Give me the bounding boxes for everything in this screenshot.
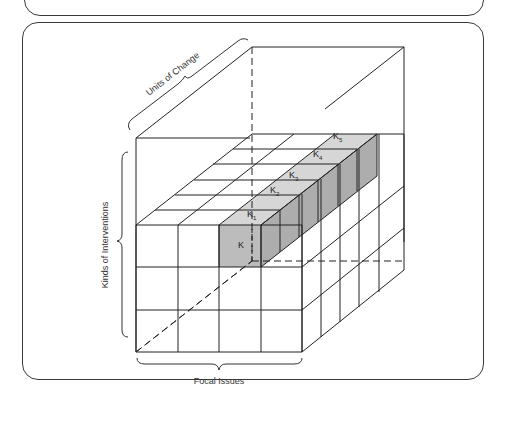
label-k0: K [238,240,244,250]
kinds-of-interventions-brace [117,152,128,337]
cube-diagram: K K1 K2 K3 K4 K5 Units of Change Kinds o… [0,0,510,428]
units-of-change-brace [128,39,248,130]
kinds-of-interventions-label: Kinds of Interventions [100,201,110,288]
units-of-change-label: Units of Change [144,50,201,98]
focal-issues-brace [137,358,302,370]
focal-issues-label: Focal Issues [194,376,245,386]
